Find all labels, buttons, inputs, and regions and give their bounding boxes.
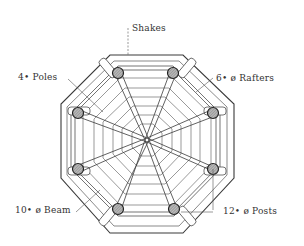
post: [168, 68, 179, 79]
label-shakes: Shakes: [132, 23, 166, 33]
label-beam: 10• ø Beam: [15, 205, 71, 215]
label-posts: 12• ø Posts: [223, 206, 277, 216]
label-poles: 4• Poles: [18, 72, 57, 82]
label-rafters: 6• ø Rafters: [216, 73, 274, 83]
shakes-rings: [83, 78, 211, 205]
post: [169, 204, 180, 215]
post: [73, 164, 84, 175]
post: [113, 68, 124, 79]
post: [113, 204, 124, 215]
post: [208, 108, 219, 119]
rafters: [76, 72, 215, 210]
post: [73, 108, 84, 119]
